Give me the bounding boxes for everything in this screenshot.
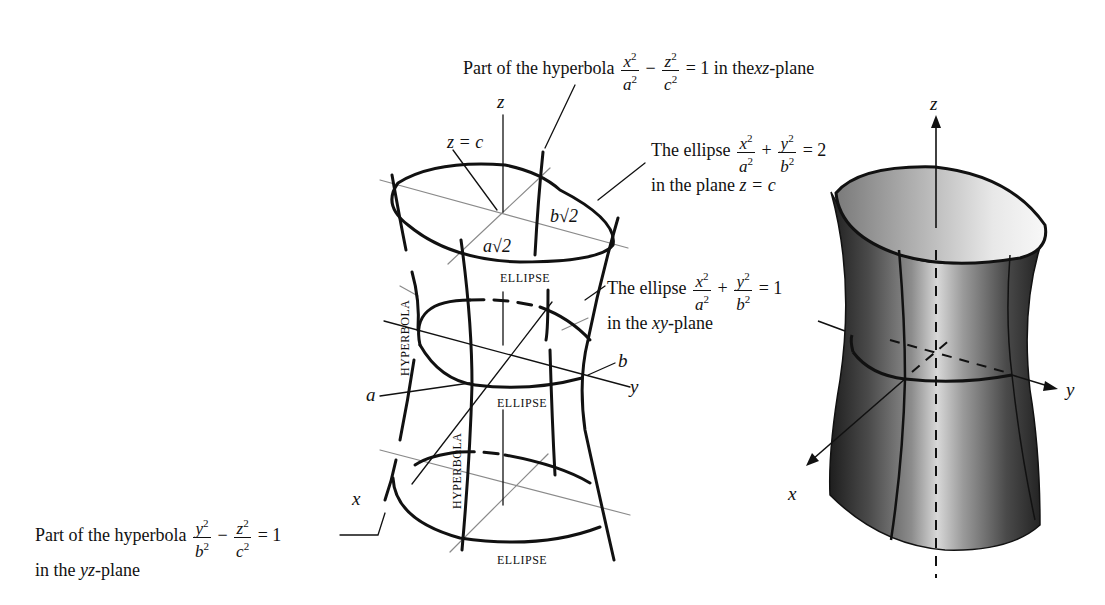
- hyperboloid-figure: z y x z = c a√2 b√2 a b ELLIPSE ELLIPSE …: [0, 0, 1105, 605]
- x-axis-label-right: x: [788, 483, 796, 505]
- y-axis-label-right: y: [1066, 379, 1074, 401]
- z-axis-label-right: z: [930, 93, 937, 115]
- right-hyperboloid-surface: [0, 0, 1105, 605]
